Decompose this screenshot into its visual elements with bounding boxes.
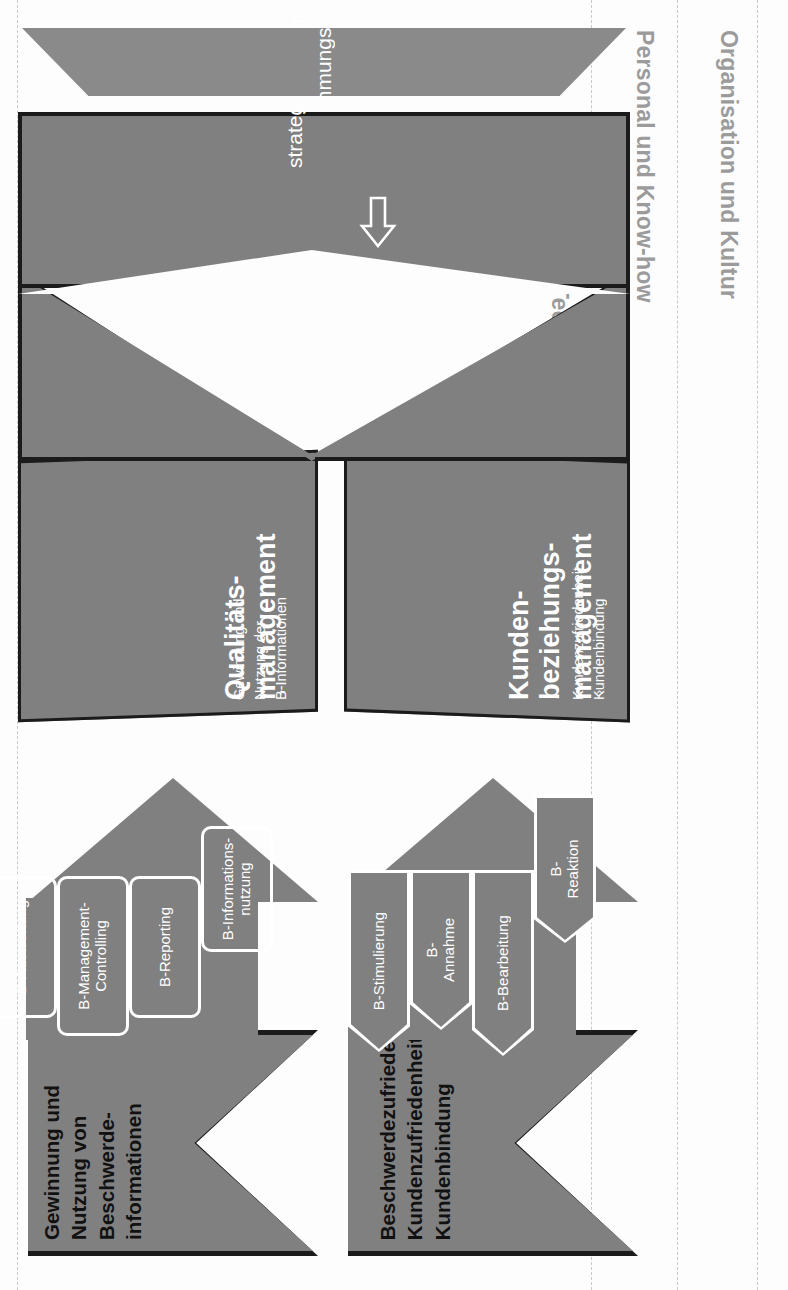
- direct-step-bearbeitung-label: B-Bearbeitung: [472, 870, 534, 1056]
- diagram-canvas: Organisation und Kultur Personal und Kno…: [0, 0, 788, 1290]
- bullet-glyph-1a: ›: [591, 690, 606, 694]
- indirect-step-auswertung[interactable]: B-Auswertung: [0, 876, 57, 1018]
- outcome-panel-2-text: Gewinnung und Nutzung von Beschwerde- in…: [38, 1085, 147, 1240]
- strategy-label: Unternehmungsstrategie: [22, 28, 626, 96]
- figure-root: Organisation und Kultur Personal und Kno…: [0, 0, 788, 1290]
- direct-step-bearbeitung[interactable]: B-Bearbeitung: [472, 870, 534, 1056]
- context-label-organisation: Organisation und Kultur: [715, 30, 742, 299]
- band-divider-1: [677, 0, 678, 1290]
- outcome-panel-beschwerdeinformationen: Gewinnung und Nutzung von Beschwerde- in…: [28, 1030, 318, 1256]
- context-label-personal: Personal und Know-how: [631, 30, 658, 303]
- indirect-step-management-controlling[interactable]: B-Management- Controlling: [57, 876, 129, 1036]
- indirect-step-informationsnutzung[interactable]: B-Informations- nutzung: [201, 826, 273, 952]
- bullet-glyph-2a: ›: [273, 690, 288, 694]
- planning-to-goals-arrow-icon: [354, 196, 398, 248]
- indirect-step-reporting[interactable]: B-Reporting: [129, 876, 201, 1018]
- bullet-glyph-1b: ›: [570, 690, 585, 694]
- direct-step-reaktion-label: B- Reaktion: [534, 795, 596, 943]
- management-panel-1-bullets: Kundenzufriedenheit Kundenbindung: [568, 470, 610, 700]
- direct-step-stimulierung-label: B-Stimulierung: [348, 870, 410, 1052]
- management-panel-2-bullets: Gewinnung und Nutzung der B-Informatione…: [229, 470, 292, 700]
- band-divider-0: [757, 0, 758, 1290]
- direct-step-stimulierung[interactable]: B-Stimulierung: [348, 870, 410, 1052]
- direct-step-annahme[interactable]: B- Annahme: [410, 870, 472, 1030]
- strategy-band: Unternehmungsstrategie: [22, 28, 626, 96]
- direct-step-reaktion[interactable]: B- Reaktion: [534, 795, 596, 943]
- outcome-panel-kundenbindung: Beschwerdezufriedenheit Kundenzufriedenh…: [348, 1030, 638, 1256]
- direct-step-annahme-label: B- Annahme: [410, 870, 472, 1030]
